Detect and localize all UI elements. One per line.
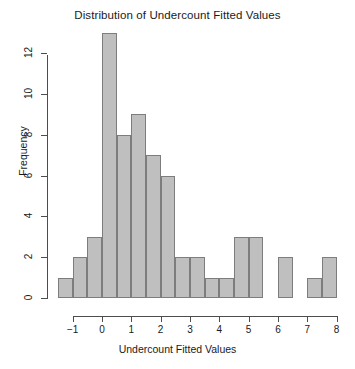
y-axis-tick-label: 10 (23, 83, 34, 105)
x-axis-tick-label: 4 (204, 324, 234, 335)
y-axis-tick (41, 216, 47, 217)
x-axis-tick-label: 6 (263, 324, 293, 335)
x-axis-tick (278, 316, 279, 322)
x-axis-title: Undercount Fitted Values (0, 343, 355, 355)
histogram-bar (102, 33, 117, 298)
histogram-bar (58, 278, 73, 298)
y-axis-tick-label: 2 (23, 246, 34, 268)
histogram-bar (87, 237, 102, 298)
histogram-bar (131, 114, 146, 298)
histogram-bar (249, 237, 264, 298)
x-axis-tick (102, 316, 103, 322)
y-axis-tick-label: 12 (23, 42, 34, 64)
x-axis-tick (219, 316, 220, 322)
x-axis-tick-label: 2 (146, 324, 176, 335)
x-axis-tick (337, 316, 338, 322)
x-axis-tick-label: 1 (116, 324, 146, 335)
histogram-bar (278, 257, 293, 298)
histogram-bar (161, 176, 176, 298)
histogram-bar (146, 155, 161, 298)
y-axis-tick (41, 53, 47, 54)
x-axis-tick-label: 7 (292, 324, 322, 335)
y-axis-tick-label: 4 (23, 205, 34, 227)
y-axis-tick (41, 135, 47, 136)
y-axis-tick-label: 6 (23, 164, 34, 186)
y-axis-tick (41, 257, 47, 258)
chart-title: Distribution of Undercount Fitted Values (0, 9, 355, 21)
histogram-bar (73, 257, 88, 298)
histogram-bar (307, 278, 322, 298)
x-axis-tick (190, 316, 191, 322)
y-axis-tick (41, 176, 47, 177)
y-axis-tick-label: 0 (23, 287, 34, 309)
histogram-bar (190, 257, 205, 298)
x-axis-tick (249, 316, 250, 322)
x-axis-tick (131, 316, 132, 322)
x-axis-tick-label: 0 (87, 324, 117, 335)
x-axis-line (73, 316, 337, 317)
y-axis-line (47, 55, 48, 299)
y-axis-tick (41, 298, 47, 299)
x-axis-tick-label: −1 (58, 324, 88, 335)
histogram-bar (175, 257, 190, 298)
plot-area (58, 30, 337, 298)
histogram-plot: Distribution of Undercount Fitted Values… (0, 0, 355, 369)
histogram-bar (219, 278, 234, 298)
histogram-bar (117, 135, 132, 298)
x-axis-tick (161, 316, 162, 322)
x-axis-tick-label: 3 (175, 324, 205, 335)
histogram-bar (205, 278, 220, 298)
x-axis-tick (73, 316, 74, 322)
x-axis-tick (307, 316, 308, 322)
histogram-bar (322, 257, 337, 298)
histogram-bar (234, 237, 249, 298)
y-axis-tick-label: 8 (23, 123, 34, 145)
x-axis-tick-label: 8 (322, 324, 352, 335)
y-axis-tick (41, 94, 47, 95)
x-axis-tick-label: 5 (234, 324, 264, 335)
